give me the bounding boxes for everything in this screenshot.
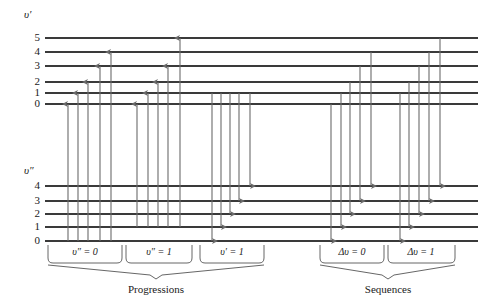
upper-state-symbol: υ′ <box>24 8 31 20</box>
caption-1: Sequences <box>328 283 448 295</box>
level-label-upper-3: 3 <box>26 59 40 71</box>
lower-state-symbol: υ″ <box>24 164 34 176</box>
energy-level-diagram <box>0 0 492 303</box>
upper-state-levels <box>45 38 478 104</box>
caption-braces <box>48 265 455 279</box>
figure-canvas: υ′ υ″ 54321043210 υ″ = 0υ″ = 1υ′ = 1Δυ =… <box>0 0 492 303</box>
lower-state-levels <box>45 186 478 241</box>
bracket-label-1: υ″ = 1 <box>131 246 187 257</box>
level-label-lower-0: 0 <box>26 234 40 246</box>
bracket-label-2: υ′ = 1 <box>204 246 260 257</box>
level-label-lower-2: 2 <box>26 207 40 219</box>
level-label-lower-3: 3 <box>26 194 40 206</box>
level-label-lower-1: 1 <box>26 220 40 232</box>
level-label-upper-4: 4 <box>26 45 40 57</box>
level-label-upper-0: 0 <box>26 97 40 109</box>
bracket-label-0: υ″ = 0 <box>57 246 113 257</box>
caption-brace-0 <box>48 265 264 279</box>
caption-brace-1 <box>320 265 455 279</box>
caption-0: Progressions <box>96 283 216 295</box>
level-label-upper-5: 5 <box>26 31 40 43</box>
bracket-label-3: Δυ = 0 <box>324 246 380 257</box>
transition-arrows <box>68 38 440 241</box>
level-label-lower-4: 4 <box>26 179 40 191</box>
bracket-label-4: Δυ = 1 <box>393 246 449 257</box>
